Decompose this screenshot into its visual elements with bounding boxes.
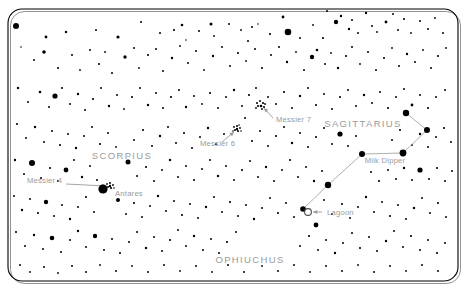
- star: [410, 32, 412, 34]
- cluster-dot: [232, 130, 234, 132]
- cluster-dot: [109, 185, 111, 187]
- star: [355, 135, 357, 137]
- star: [385, 240, 387, 242]
- star: [77, 206, 79, 208]
- star: [209, 92, 211, 94]
- star: [299, 245, 301, 247]
- star: [325, 265, 327, 267]
- star: [403, 167, 405, 169]
- star: [65, 31, 67, 33]
- star: [307, 146, 309, 148]
- star: [149, 205, 151, 207]
- star: [116, 198, 120, 202]
- star: [159, 32, 161, 34]
- star: [291, 142, 293, 144]
- constellation-label: OPHIUCHUS: [215, 254, 284, 265]
- star: [111, 238, 113, 240]
- star: [210, 23, 213, 26]
- star: [442, 32, 444, 34]
- star: [392, 13, 394, 15]
- star: [413, 207, 415, 209]
- star: [207, 127, 209, 129]
- star: [14, 159, 16, 161]
- star: [370, 171, 372, 173]
- cluster-dot: [260, 105, 263, 108]
- star: [15, 231, 17, 233]
- star: [321, 170, 323, 172]
- star: [259, 130, 261, 132]
- cluster-dot: [236, 128, 238, 130]
- star: [247, 40, 249, 42]
- star: [157, 195, 159, 197]
- star: [405, 270, 407, 272]
- star: [403, 88, 405, 90]
- star: [314, 223, 319, 228]
- star: [60, 251, 62, 253]
- star: [285, 202, 287, 204]
- star: [437, 270, 439, 272]
- star: [155, 92, 157, 94]
- bright-star: [325, 182, 331, 188]
- star: [312, 24, 314, 26]
- star: [398, 65, 400, 67]
- star: [185, 39, 187, 41]
- star: [221, 46, 223, 48]
- star: [251, 140, 253, 142]
- star: [310, 55, 314, 59]
- star: [125, 213, 127, 215]
- star-chart: SCORPIUSSAGITTARIUSOPHIUCHUS Messier 4Me…: [0, 0, 465, 289]
- chart-frame-shadow: [11, 12, 461, 284]
- star: [395, 178, 397, 180]
- star: [315, 136, 317, 138]
- star: [282, 16, 285, 19]
- object-label: Lagoon: [327, 208, 354, 217]
- star: [385, 21, 388, 24]
- star: [195, 265, 197, 267]
- star: [324, 63, 326, 65]
- star: [85, 271, 87, 273]
- star: [411, 104, 414, 107]
- star: [436, 252, 438, 254]
- star: [359, 63, 361, 65]
- star: [209, 159, 211, 161]
- star: [347, 89, 349, 91]
- star: [273, 180, 275, 182]
- star: [29, 271, 31, 273]
- star: [91, 126, 93, 128]
- star: [293, 216, 295, 218]
- star: [422, 49, 424, 51]
- cluster-dot: [255, 107, 257, 109]
- star: [308, 235, 310, 237]
- star: [351, 232, 353, 234]
- star: [217, 175, 219, 177]
- star: [241, 169, 243, 171]
- star: [51, 130, 53, 132]
- star: [95, 29, 97, 31]
- frame-shadow: [11, 12, 461, 284]
- star: [84, 109, 86, 111]
- star: [443, 127, 445, 129]
- star: [428, 178, 430, 180]
- star: [359, 247, 361, 249]
- star: [427, 146, 429, 148]
- star: [307, 87, 309, 89]
- star: [371, 102, 373, 104]
- star: [244, 117, 246, 119]
- star: [13, 195, 15, 197]
- star: [445, 216, 447, 218]
- star: [278, 46, 280, 48]
- star: [71, 265, 73, 267]
- star: [141, 216, 143, 218]
- star: [162, 70, 164, 72]
- star: [92, 98, 94, 100]
- star: [289, 159, 291, 161]
- star: [89, 165, 91, 167]
- star: [71, 54, 73, 56]
- star: [322, 37, 324, 39]
- star: [450, 141, 452, 143]
- star: [145, 247, 147, 249]
- star: [93, 234, 97, 238]
- star: [75, 147, 77, 149]
- cluster-dot: [256, 102, 258, 104]
- star: [43, 266, 45, 268]
